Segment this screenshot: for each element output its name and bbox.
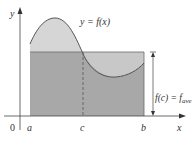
x-axis-arrow-icon xyxy=(179,114,186,119)
curve-label: y = f(x) xyxy=(79,16,111,28)
figure-canvas: y y = f(x) f(c) = fave 0 a c b x xyxy=(0,0,192,147)
x-axis-label: x xyxy=(176,122,182,133)
y-axis-label: y xyxy=(9,8,15,19)
bracket-down-arrow-icon xyxy=(151,111,155,116)
origin-label: 0 xyxy=(10,122,15,133)
y-axis-arrow-icon xyxy=(18,7,23,14)
tick-a: a xyxy=(27,122,32,133)
tick-c: c xyxy=(80,122,85,133)
tick-b: b xyxy=(141,122,146,133)
bracket-up-arrow-icon xyxy=(151,52,155,57)
